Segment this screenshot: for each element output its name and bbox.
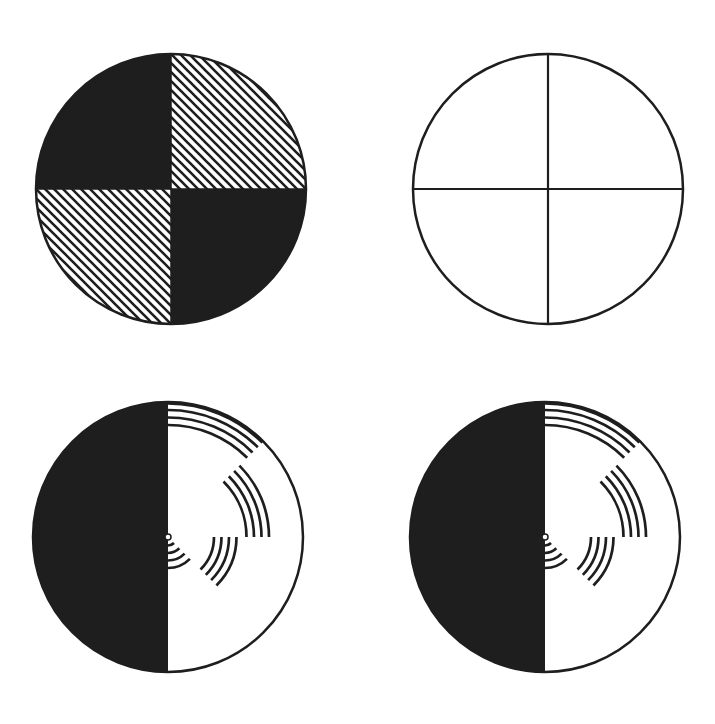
black-half [410,402,545,672]
quartered-outline-disk [413,54,683,324]
quadrant-bottom-left-hatched [36,189,171,324]
checker-hatched-disk [36,54,306,324]
quadrant-top-left-solid [36,54,171,189]
quadrant-top-right-hatched [171,54,306,189]
figure-canvas [0,0,715,724]
quadrant-bottom-right-solid [171,189,306,324]
center-pivot-dot [165,534,171,540]
center-pivot-dot [542,534,548,540]
benham-disk-right [410,402,680,672]
black-half [33,402,168,672]
benham-disk-left [33,402,303,672]
